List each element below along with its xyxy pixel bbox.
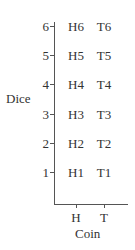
y-tick-4: [50, 84, 54, 85]
cell-h4: H4: [68, 78, 84, 91]
y-tick-label-3: 3: [43, 108, 50, 121]
y-tick-1: [50, 172, 54, 173]
x-tick-t: [104, 204, 105, 208]
y-tick-3: [50, 114, 54, 115]
cell-t2: T2: [97, 137, 111, 150]
cell-t6: T6: [97, 20, 111, 33]
cell-h5: H5: [68, 49, 84, 62]
y-tick-2: [50, 143, 54, 144]
y-tick-6: [50, 26, 54, 27]
cell-h3: H3: [68, 108, 84, 121]
y-tick-label-6: 6: [43, 20, 50, 33]
cell-t5: T5: [97, 49, 111, 62]
x-tick-label-h: H: [71, 211, 80, 224]
x-axis-label: Coin: [75, 227, 100, 240]
y-tick-label-2: 2: [43, 137, 50, 150]
cell-t3: T3: [97, 108, 111, 121]
cell-t1: T1: [97, 166, 111, 179]
cell-t4: T4: [97, 78, 111, 91]
x-tick-h: [76, 204, 77, 208]
y-axis-line: [54, 22, 55, 205]
x-axis-line: [54, 204, 128, 205]
y-tick-label-5: 5: [43, 49, 50, 62]
y-tick-5: [50, 55, 54, 56]
y-axis-label: Dice: [6, 92, 31, 105]
cell-h2: H2: [68, 137, 84, 150]
y-tick-label-4: 4: [43, 78, 50, 91]
cell-h6: H6: [68, 20, 84, 33]
x-tick-label-t: T: [100, 211, 108, 224]
cell-h1: H1: [68, 166, 84, 179]
y-tick-label-1: 1: [43, 166, 50, 179]
